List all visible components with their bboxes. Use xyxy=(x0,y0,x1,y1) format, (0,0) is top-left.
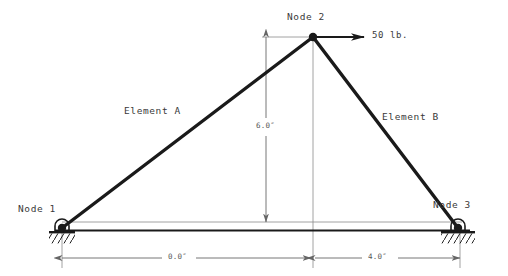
element-b-label: Element B xyxy=(382,111,439,122)
truss-members xyxy=(62,37,458,228)
dimension-left-span-label: 0.0″ xyxy=(168,252,187,261)
node-3-marker xyxy=(454,224,462,232)
dimension-right-span-label: 4.0″ xyxy=(368,252,387,261)
node-2-label: Node 2 xyxy=(287,11,325,22)
truss-diagram: Node 1 Node 2 Node 3 Element A Element B… xyxy=(0,0,508,276)
element-a-label: Element A xyxy=(124,105,181,116)
node-1-marker xyxy=(58,224,66,232)
dimension-vertical-label: 6.0″ xyxy=(256,121,275,130)
node-3-label: Node 3 xyxy=(433,199,471,210)
load-label: 50 lb. xyxy=(372,30,408,40)
node-1-label: Node 1 xyxy=(18,203,56,214)
node-2-marker xyxy=(309,33,317,41)
element-a-member xyxy=(62,37,313,228)
truss-diagram-canvas xyxy=(0,0,508,276)
node-markers xyxy=(58,33,462,232)
